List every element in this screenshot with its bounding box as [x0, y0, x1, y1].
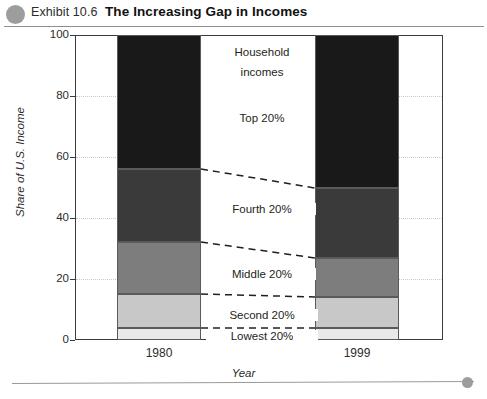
- label-backdrop: [201, 36, 315, 339]
- footer-divider: [12, 381, 474, 384]
- segment-1999-middle20[interactable]: [315, 258, 399, 298]
- y-axis-title: Share of U.S. Income: [14, 102, 26, 222]
- segment-1980-middle20[interactable]: [117, 242, 201, 294]
- annotation-household-incomes-line2: incomes: [213, 66, 311, 78]
- annotation-lowest20: Lowest 20%: [206, 330, 318, 342]
- segment-1999-second20[interactable]: [315, 297, 399, 328]
- segment-1980-top20[interactable]: [117, 35, 201, 169]
- x-tick-label-1980: 1980: [114, 346, 204, 360]
- y-tick-label-100: 100: [43, 28, 69, 40]
- bar-1980[interactable]: [117, 35, 201, 340]
- header-divider: [4, 26, 484, 27]
- segment-1980-second20[interactable]: [117, 294, 201, 328]
- segment-1999-fourth20[interactable]: [315, 188, 399, 258]
- segment-1999-lowest20[interactable]: [315, 328, 399, 340]
- bar-1999[interactable]: [315, 35, 399, 340]
- segment-1980-lowest20[interactable]: [117, 328, 201, 340]
- circle-bullet-icon: [6, 5, 25, 24]
- y-tick-label-80: 80: [43, 89, 69, 101]
- annotation-fourth20: Fourth 20%: [208, 203, 316, 215]
- y-tick-label-20: 20: [43, 272, 69, 284]
- page-title: The Increasing Gap in Incomes: [105, 4, 307, 19]
- x-tick-label-1999: 1999: [312, 346, 402, 360]
- circle-bullet-icon: [462, 377, 473, 388]
- y-tick-label-40: 40: [43, 211, 69, 223]
- annotation-middle20: Middle 20%: [208, 268, 316, 280]
- exhibit-label: Exhibit 10.6: [31, 5, 98, 19]
- annotation-top20: Top 20%: [213, 112, 311, 124]
- segment-1980-fourth20[interactable]: [117, 169, 201, 242]
- y-tick-label-0: 0: [43, 333, 69, 345]
- chart-figure: Share of U.S. Income 0 20 40 60 80 100: [0, 28, 487, 358]
- exhibit-header: Exhibit 10.6 The Increasing Gap in Incom…: [0, 0, 487, 30]
- annotation-second20: Second 20%: [206, 309, 318, 321]
- annotation-household-incomes-line1: Household: [213, 46, 311, 58]
- segment-1999-top20[interactable]: [315, 35, 399, 188]
- y-tick-mark-0: [70, 340, 75, 341]
- x-axis-title: Year: [0, 367, 487, 379]
- y-tick-label-60: 60: [43, 150, 69, 162]
